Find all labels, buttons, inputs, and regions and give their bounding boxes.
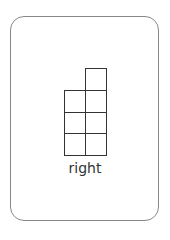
grid-cell [85, 112, 107, 134]
grid-cell [64, 112, 86, 134]
grid-cell [85, 133, 107, 156]
card-label: right [0, 160, 170, 176]
grid-cell [64, 90, 86, 113]
grid-cell [85, 90, 107, 113]
grid-cell [85, 68, 107, 91]
grid-cell [64, 133, 86, 156]
